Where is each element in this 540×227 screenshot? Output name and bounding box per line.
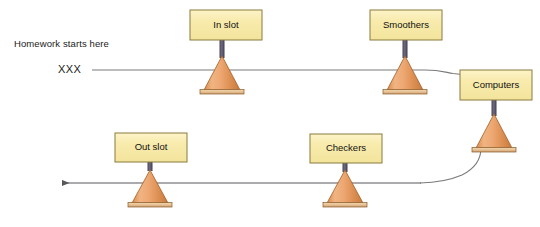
diagram-svg: [0, 0, 540, 227]
node-checkers-base-plate: [323, 203, 367, 208]
node-in-slot-base-plate: [200, 90, 244, 95]
node-out-slot[interactable]: [115, 133, 187, 207]
node-out-slot-funnel: [132, 170, 168, 203]
diagram-canvas: Homework starts here XXX In slot Smoothe…: [0, 0, 540, 227]
node-checkers[interactable]: [310, 134, 382, 207]
node-in-slot[interactable]: [190, 10, 262, 94]
flow-line-connector: [420, 148, 481, 183]
node-computers[interactable]: [460, 70, 532, 152]
node-computers-funnel: [476, 114, 512, 148]
node-out-slot-base-plate: [128, 203, 172, 208]
node-smoothers-box[interactable]: [370, 10, 442, 40]
node-checkers-funnel: [327, 170, 363, 203]
homework-start-annotation: Homework starts here: [14, 38, 109, 49]
node-smoothers[interactable]: [370, 10, 442, 94]
node-out-slot-box[interactable]: [115, 133, 187, 162]
node-computers-base-plate: [472, 148, 516, 153]
xxx-marker-annotation: XXX: [58, 63, 81, 75]
node-computers-box[interactable]: [460, 70, 532, 100]
node-in-slot-box[interactable]: [190, 10, 262, 40]
node-smoothers-base-plate: [383, 90, 427, 95]
node-in-slot-funnel: [204, 56, 240, 90]
node-checkers-box[interactable]: [310, 134, 382, 163]
node-smoothers-funnel: [387, 56, 423, 90]
